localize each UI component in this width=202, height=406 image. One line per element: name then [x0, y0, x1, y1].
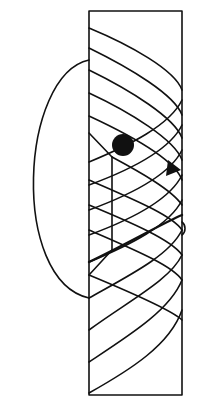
- helix-strand-back: [89, 200, 182, 262]
- helix-diagram: [0, 0, 202, 406]
- notch-bottom-edge: [89, 250, 112, 275]
- helix-strand-back: [89, 310, 182, 393]
- return-loop: [33, 60, 89, 298]
- helix-strand-back: [89, 100, 182, 162]
- back-helix-strands: [89, 100, 182, 393]
- helix-strand-back: [89, 125, 182, 185]
- ball-marker: [112, 134, 134, 156]
- helix-strand-front: [89, 28, 182, 90]
- helix-strand-front: [89, 48, 182, 115]
- highlighted-trajectory: [89, 215, 182, 262]
- helix-strand-front: [89, 70, 182, 138]
- helix-strand-back: [89, 255, 182, 330]
- column-frame: [89, 11, 182, 395]
- notch-top-edge: [89, 133, 112, 157]
- helix-strand-front: [89, 93, 182, 160]
